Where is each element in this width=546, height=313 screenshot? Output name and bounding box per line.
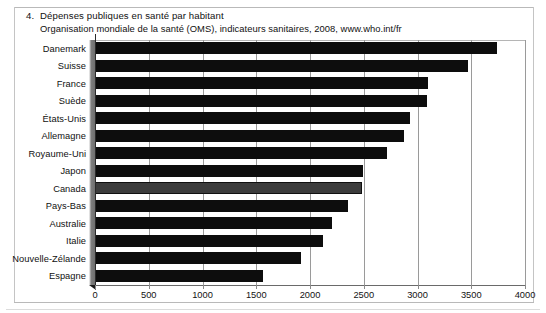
y-axis-label: Pays-Bas (0, 201, 86, 211)
x-axis-tick (256, 285, 257, 289)
bar-row[interactable] (95, 145, 525, 163)
bar-row[interactable] (95, 93, 525, 111)
y-axis-label: Espagne (0, 271, 86, 281)
y-axis-label: Canada (0, 184, 86, 194)
x-axis-tick-label: 500 (141, 290, 157, 300)
x-axis-tick (203, 285, 204, 289)
gridline (525, 40, 526, 285)
x-axis-tick-label: 2500 (353, 290, 374, 300)
x-axis-tick-label: 0 (92, 290, 97, 300)
x-axis-tick (525, 285, 526, 289)
plot-area (95, 40, 525, 285)
figure-page: 4.Dépenses publiques en santé par habita… (0, 0, 546, 313)
y-axis-label: Japon (0, 166, 86, 176)
bar[interactable] (95, 217, 332, 229)
x-axis-tick-label: 4000 (515, 290, 536, 300)
x-axis-tick (418, 285, 419, 289)
y-axis-label: Suisse (0, 61, 86, 71)
y-axis-line (95, 34, 96, 285)
bar-row[interactable] (95, 268, 525, 286)
bar[interactable] (95, 77, 428, 89)
bar-row[interactable] (95, 75, 525, 93)
x-axis-tick-label: 1500 (246, 290, 267, 300)
bar[interactable] (95, 95, 427, 107)
bar[interactable] (95, 112, 410, 124)
x-axis-tick (364, 285, 365, 289)
bar-row[interactable] (95, 180, 525, 198)
y-axis-label: Suède (0, 96, 86, 106)
bar-row[interactable] (95, 110, 525, 128)
bar[interactable] (95, 42, 497, 54)
y-axis-label: États-Unis (0, 114, 86, 124)
y-axis-label: Italie (0, 236, 86, 246)
x-axis-tick-label: 1000 (192, 290, 213, 300)
x-axis-tick (149, 285, 150, 289)
x-axis-tick-label: 2000 (300, 290, 321, 300)
bar[interactable] (95, 182, 362, 194)
bar[interactable] (95, 252, 301, 264)
y-axis-label: Royaume-Uni (0, 149, 86, 159)
bar-row[interactable] (95, 58, 525, 76)
bar[interactable] (95, 165, 363, 177)
bar[interactable] (95, 200, 348, 212)
bar[interactable] (95, 60, 468, 72)
y-axis-label: France (0, 79, 86, 89)
bar[interactable] (95, 130, 404, 142)
bar[interactable] (95, 270, 263, 282)
x-axis-tick-label: 3000 (407, 290, 428, 300)
bar-row[interactable] (95, 215, 525, 233)
y-axis-label: Danemark (0, 44, 86, 54)
bar[interactable] (95, 147, 387, 159)
bar-row[interactable] (95, 128, 525, 146)
y-axis-label: Australie (0, 219, 86, 229)
bar-row[interactable] (95, 233, 525, 251)
bar-row[interactable] (95, 198, 525, 216)
y-axis-label: Allemagne (0, 131, 86, 141)
bar-row[interactable] (95, 40, 525, 58)
bar[interactable] (95, 235, 323, 247)
x-axis-tick (95, 285, 96, 289)
bar-row[interactable] (95, 250, 525, 268)
y-axis-label: Nouvelle-Zélande (0, 254, 86, 264)
bar-row[interactable] (95, 163, 525, 181)
bar-chart: DanemarkSuisseFranceSuèdeÉtats-UnisAllem… (0, 0, 546, 313)
x-axis-tick (310, 285, 311, 289)
x-axis-tick (471, 285, 472, 289)
x-axis-tick-label: 3500 (461, 290, 482, 300)
